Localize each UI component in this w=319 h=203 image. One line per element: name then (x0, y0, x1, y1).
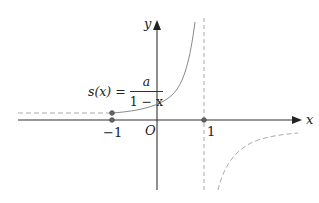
x-axis-label: x (306, 113, 313, 126)
tick-label-neg1: −1 (103, 126, 122, 139)
x-axis-arrow-icon (292, 116, 302, 124)
origin-label: O (145, 124, 156, 137)
function-lhs: s(x) = (88, 84, 126, 99)
y-axis-label: y (144, 17, 151, 30)
point-neg1-curve (110, 111, 115, 116)
point-neg1-axis (110, 118, 115, 123)
function-denominator: 1 − x (130, 94, 163, 109)
y-axis-arrow-icon (153, 20, 161, 30)
fraction-bar (130, 91, 163, 92)
tick-label-1: 1 (207, 125, 215, 138)
function-numerator: a (141, 74, 152, 89)
dashed-right-branch (218, 133, 298, 190)
point-1-axis (202, 118, 207, 123)
function-label: s(x) = a 1 − x (88, 74, 163, 109)
function-graph-diagram: y x O −1 1 s(x) = a 1 − x (0, 0, 319, 203)
